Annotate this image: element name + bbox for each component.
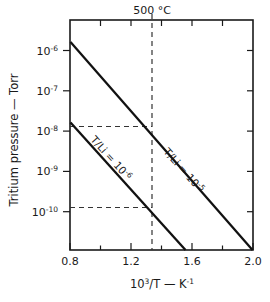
x-axis-label: 103/T — K-1 <box>130 277 194 291</box>
x-tick-label: 1.2 <box>122 255 140 268</box>
y-tick-label: 10-9 <box>37 164 59 178</box>
x-axis-ticks-top <box>101 20 223 26</box>
x-tick-label: 2.0 <box>244 255 262 268</box>
x-tick-label: 0.8 <box>61 255 79 268</box>
curve-label-t-li-1e-5: T/Li = 10-5 <box>161 144 207 195</box>
y-tick-label: 10-8 <box>37 124 59 138</box>
chart-figure: 500 °C 10-6 10-7 10-8 10-9 10-10 0.8 1.2… <box>0 0 270 302</box>
y-tick-label: 10-7 <box>37 84 59 98</box>
top-annotation-500c: 500 °C <box>133 4 171 17</box>
y-axis-ticks <box>63 51 70 212</box>
tritium-pressure-chart: 500 °C 10-6 10-7 10-8 10-9 10-10 0.8 1.2… <box>0 0 270 302</box>
x-tick-label: 1.6 <box>183 255 201 268</box>
x-tick-labels: 0.8 1.2 1.6 2.0 <box>61 255 262 268</box>
x-axis-ticks-bottom <box>70 243 253 250</box>
y-tick-label: 10-6 <box>37 44 59 58</box>
y-tick-labels: 10-6 10-7 10-8 10-9 10-10 <box>32 44 58 219</box>
curve-t-li-1e-6 <box>71 123 186 251</box>
y-tick-label: 10-10 <box>32 205 58 219</box>
y-axis-ticks-right <box>247 51 253 212</box>
y-axis-label: Tritium pressure — Torr <box>7 73 21 207</box>
curve-label-t-li-1e-6: T/Li = 10-6 <box>88 132 135 182</box>
